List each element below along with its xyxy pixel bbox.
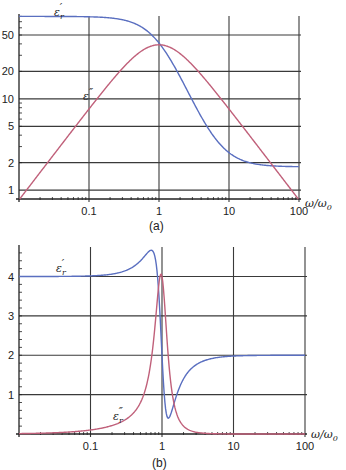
chart-b: 12340.1110100 εr′ εr″ ω/ω0 (b) [0,235,346,470]
x-tick-label: 1 [159,440,165,452]
curve-label-imag-a: ε″ [83,86,94,103]
y-tick-label: 20 [2,65,14,77]
x-tick-label: 100 [296,440,314,452]
curve-label-imag-b: εr″ [113,405,124,425]
y-tick-label: 2 [8,349,14,361]
y-tick-label: 1 [8,389,14,401]
curve-label-real-b: εr′ [56,257,67,277]
y-tick-label: 1 [8,184,14,196]
figure: 1251020500.1110100 εr′ ε″ ω/ω0 (a) 12340… [0,0,346,470]
y-tick-label: 2 [8,157,14,169]
chart-a: 1251020500.1110100 εr′ ε″ ω/ω0 (a) [0,0,346,235]
curve-label-real-a: εr′ [54,1,65,21]
y-tick-label: 3 [8,310,14,322]
y-tick-label: 4 [8,271,14,283]
x-tick-label: 0.1 [83,440,98,452]
panel-label-b: (b) [152,456,167,470]
x-tick-label: 0.1 [81,205,96,217]
y-tick-label: 5 [8,120,14,132]
x-tick-label: 10 [227,440,239,452]
x-tick-label: 1 [156,205,162,217]
tick-labels-b: 12340.1110100 [8,271,314,453]
tick-labels-a: 1251020500.1110100 [2,29,308,217]
panel-label-a: (a) [149,219,164,233]
x-axis-title-b: ω/ω0 [311,428,338,443]
y-tick-label: 50 [2,29,14,41]
x-axis-title-a: ω/ω0 [305,197,332,212]
y-tick-label: 10 [2,93,14,105]
x-tick-label: 10 [223,205,235,217]
